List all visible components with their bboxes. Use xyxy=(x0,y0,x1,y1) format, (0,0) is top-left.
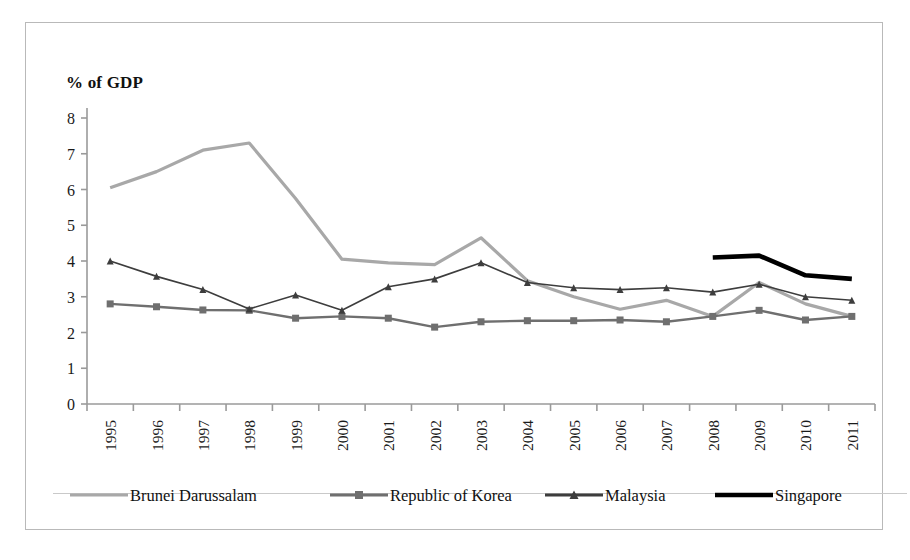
x-tick-label: 2010 xyxy=(797,420,814,451)
x-tick-label: 1995 xyxy=(102,420,119,451)
x-tick-label: 2009 xyxy=(751,420,768,451)
x-tick-label: 2008 xyxy=(705,420,722,451)
x-tick-label: 2006 xyxy=(612,420,629,451)
data-point-marker xyxy=(802,316,809,323)
series-layer xyxy=(107,143,856,331)
series-line xyxy=(713,256,852,279)
x-tick-label: 2004 xyxy=(519,420,536,451)
legend-label: Republic of Korea xyxy=(390,486,513,505)
x-tick-label: 1997 xyxy=(195,420,212,451)
legend-label: Singapore xyxy=(775,486,842,505)
series-line xyxy=(110,143,852,316)
legend-item[interactable]: Singapore xyxy=(715,486,842,505)
x-tick-label: 2000 xyxy=(334,420,351,451)
chart-legend: Brunei DarussalamRepublic of KoreaMalays… xyxy=(70,486,842,505)
y-tick-label: 4 xyxy=(67,253,75,270)
axis-layer xyxy=(81,108,875,411)
legend-label: Brunei Darussalam xyxy=(130,486,257,505)
x-tick-label: 2007 xyxy=(658,420,675,451)
y-tick-label: 2 xyxy=(67,325,75,342)
y-tick-label: 6 xyxy=(67,182,75,199)
y-tick-label: 3 xyxy=(67,289,75,306)
x-tick-label: 2005 xyxy=(566,420,583,451)
data-point-marker xyxy=(478,259,485,266)
x-tick-label: 1999 xyxy=(288,420,305,451)
x-tick-label: 2011 xyxy=(844,420,861,450)
series-path xyxy=(110,261,852,310)
data-point-marker xyxy=(385,315,392,322)
y-tick-label: 1 xyxy=(67,360,75,377)
y-tick-label: 5 xyxy=(67,217,75,234)
x-tick-label: 2003 xyxy=(473,420,490,451)
data-point-marker xyxy=(570,317,577,324)
legend-label: Malaysia xyxy=(605,486,666,505)
x-tick-labels: 1995199619971998199920002001200220032004… xyxy=(102,420,861,451)
data-point-marker xyxy=(617,316,624,323)
data-point-marker xyxy=(478,318,485,325)
y-tick-labels: 012345678 xyxy=(67,110,75,413)
line-chart: 012345678 199519961997199819992000200120… xyxy=(25,22,883,530)
data-point-marker xyxy=(338,313,345,320)
data-point-marker xyxy=(848,313,855,320)
series-path xyxy=(110,143,852,316)
legend-item[interactable]: Brunei Darussalam xyxy=(70,486,257,505)
y-tick-label: 0 xyxy=(67,396,75,413)
x-tick-label: 2002 xyxy=(427,420,444,451)
x-tick-label: 1996 xyxy=(149,420,166,451)
x-tick-label: 1998 xyxy=(241,420,258,451)
data-point-marker xyxy=(756,307,763,314)
data-point-marker xyxy=(292,315,299,322)
series-line xyxy=(107,258,856,314)
x-tick-label: 2001 xyxy=(380,420,397,451)
data-point-marker xyxy=(431,324,438,331)
data-point-marker xyxy=(107,300,114,307)
y-tick-label: 8 xyxy=(67,110,75,127)
series-path xyxy=(713,256,852,279)
data-point-marker xyxy=(524,317,531,324)
data-point-marker xyxy=(663,318,670,325)
legend-item[interactable]: Republic of Korea xyxy=(330,486,513,505)
legend-item[interactable]: Malaysia xyxy=(545,486,666,505)
data-point-marker xyxy=(199,306,206,313)
y-tick-label: 7 xyxy=(67,146,75,163)
legend-marker xyxy=(355,491,363,499)
series-line xyxy=(107,300,856,330)
data-point-marker xyxy=(153,303,160,310)
data-point-marker xyxy=(709,313,716,320)
